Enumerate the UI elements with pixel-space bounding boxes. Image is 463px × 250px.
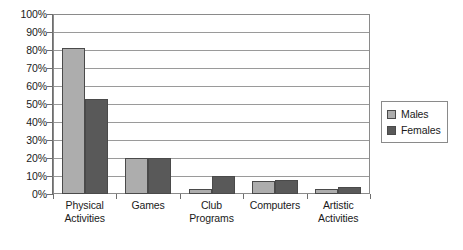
- bar-males-computers: [252, 181, 275, 194]
- bar-females-computers: [275, 180, 298, 194]
- category-label-line: Artistic: [307, 199, 370, 212]
- y-axis-tick-label: 70%: [0, 63, 47, 74]
- y-axis-tick-labels: 0%10%20%30%40%50%60%70%80%90%100%: [0, 8, 47, 194]
- y-axis-tick-label: 30%: [0, 135, 47, 146]
- x-axis-category-labels: PhysicalActivitiesGamesClubProgramsCompu…: [53, 199, 370, 243]
- y-axis-tick-label: 60%: [0, 81, 47, 92]
- y-axis-tick-label: 0%: [0, 189, 47, 200]
- legend-item-males: Males: [387, 107, 441, 121]
- y-axis-tick-label: 80%: [0, 45, 47, 56]
- category-label-line: Computers: [243, 199, 306, 212]
- y-axis-tick-mark: [47, 86, 52, 87]
- x-axis-category-label: ClubPrograms: [180, 199, 243, 225]
- y-axis-tick-mark: [47, 14, 52, 15]
- bar-males-games: [125, 158, 148, 194]
- category-label-line: Activities: [53, 212, 116, 225]
- category-label-line: Games: [116, 199, 179, 212]
- legend-label-males: Males: [401, 108, 429, 120]
- bar-females-artistic-activities: [338, 187, 361, 194]
- category-label-line: Physical: [53, 199, 116, 212]
- y-axis-tick-mark: [47, 122, 52, 123]
- legend-swatch-males-icon: [387, 110, 396, 119]
- y-axis-tick-mark: [47, 32, 52, 33]
- y-axis-tick-mark: [47, 158, 52, 159]
- legend-swatch-females-icon: [387, 126, 396, 135]
- y-axis-tick-label: 20%: [0, 153, 47, 164]
- x-axis-tick-mark: [53, 194, 54, 199]
- y-axis-tick-label: 90%: [0, 27, 47, 38]
- y-axis-tick-mark: [47, 68, 52, 69]
- y-axis-tick-mark: [47, 194, 52, 195]
- x-axis-category-label: ArtisticActivities: [307, 199, 370, 225]
- bar-males-artistic-activities: [315, 189, 338, 194]
- y-axis-tick-label: 50%: [0, 99, 47, 110]
- y-axis-tick-label: 10%: [0, 171, 47, 182]
- bar-females-games: [148, 158, 171, 194]
- y-axis-tick-mark: [47, 104, 52, 105]
- y-axis-tick-label: 40%: [0, 117, 47, 128]
- x-axis-tick-mark: [116, 194, 117, 199]
- y-axis-tick-mark: [47, 176, 52, 177]
- x-axis-tick-mark: [307, 194, 308, 199]
- category-label-line: Programs: [180, 212, 243, 225]
- x-axis-category-label: PhysicalActivities: [53, 199, 116, 225]
- x-axis-tick-mark: [180, 194, 181, 199]
- bar-males-club-programs: [189, 189, 212, 194]
- x-axis-category-label: Computers: [243, 199, 306, 212]
- x-axis-tick-mark: [243, 194, 244, 199]
- y-axis-tick-mark: [47, 140, 52, 141]
- bar-females-physical-activities: [85, 99, 108, 194]
- chart-legend: Males Females: [381, 101, 448, 143]
- category-label-line: Activities: [307, 212, 370, 225]
- x-axis-tick-mark: [370, 194, 371, 199]
- category-label-line: Club: [180, 199, 243, 212]
- legend-label-females: Females: [401, 124, 441, 136]
- legend-item-females: Females: [387, 123, 441, 137]
- x-axis-category-label: Games: [116, 199, 179, 212]
- bars-layer: [53, 14, 370, 194]
- bar-chart: 0%10%20%30%40%50%60%70%80%90%100% Physic…: [0, 0, 463, 250]
- y-axis-tick-mark: [47, 50, 52, 51]
- y-axis-tick-label: 100%: [0, 9, 47, 20]
- bar-males-physical-activities: [62, 48, 85, 194]
- bar-females-club-programs: [212, 176, 235, 194]
